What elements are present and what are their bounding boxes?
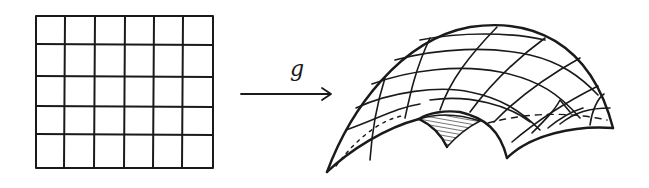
- surface-grid-line: [420, 34, 545, 40]
- curved-surface: [327, 25, 613, 172]
- surface-grid-line: [494, 58, 580, 122]
- flat-grid: [36, 16, 213, 168]
- grid-row-line: [36, 106, 213, 107]
- surface-outer-edge: [327, 25, 613, 172]
- grid-column-line: [153, 16, 154, 168]
- grid-row-line: [36, 76, 213, 77]
- grid-column-line: [182, 16, 183, 168]
- mapping-arrow: g: [241, 56, 331, 100]
- figure-canvas: g: [0, 0, 649, 188]
- surface-grid-line: [395, 49, 598, 95]
- shaded-underside: [419, 115, 480, 147]
- mapping-label: g: [290, 56, 304, 81]
- grid-row-line: [36, 44, 213, 45]
- surface-grid-lines: [346, 27, 610, 160]
- grid-column-line: [64, 16, 65, 168]
- grid-row-line: [36, 134, 213, 135]
- grid-column-line: [124, 16, 125, 168]
- grid-column-line: [94, 16, 95, 168]
